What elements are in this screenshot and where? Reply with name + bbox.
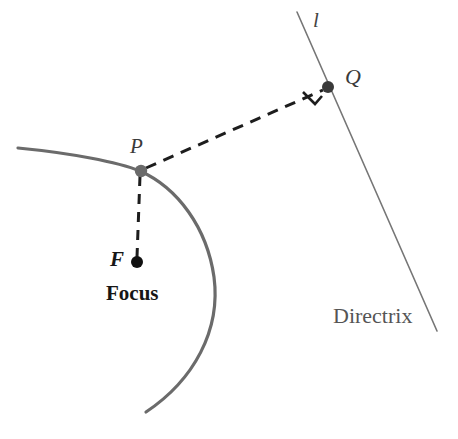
point-f-label: F xyxy=(110,249,124,270)
focus-caption: Focus xyxy=(106,283,159,304)
point-p-label: P xyxy=(130,136,143,157)
point-f-dot xyxy=(131,256,143,268)
parabola-diagram xyxy=(0,0,458,439)
line-l-label: l xyxy=(313,10,319,31)
point-p-dot xyxy=(135,165,147,177)
point-q-label: Q xyxy=(345,66,361,88)
diagram-background xyxy=(0,0,458,439)
directrix-caption: Directrix xyxy=(333,305,412,327)
point-q-dot xyxy=(322,81,334,93)
